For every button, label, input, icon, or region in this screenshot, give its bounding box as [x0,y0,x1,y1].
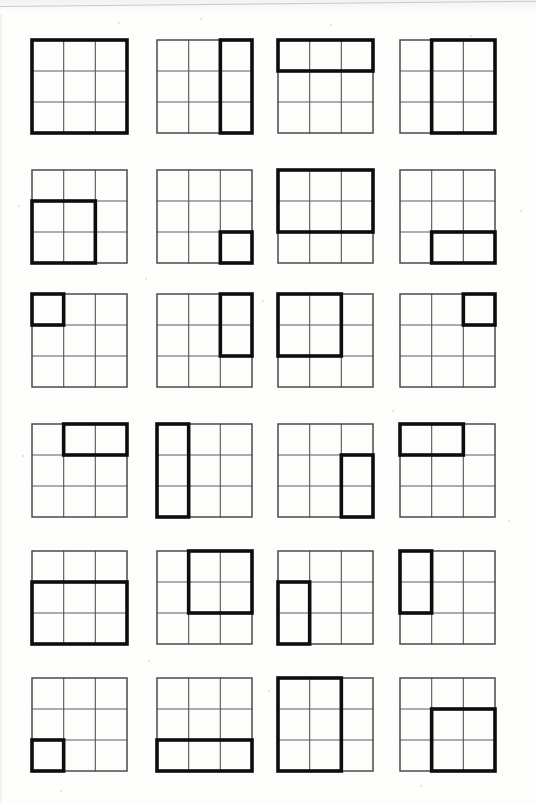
grid-figure-3[interactable] [274,36,377,137]
grid-lines-group [157,678,252,771]
grid-outer-border [157,170,252,263]
grid-figure-21[interactable] [28,674,131,775]
highlighted-region[interactable] [220,40,252,133]
highlighted-region[interactable] [32,740,64,771]
grid-figure-2[interactable] [153,36,256,137]
grid-canvas-8 [396,166,499,267]
grid-canvas-6 [153,166,256,267]
grid-figure-12[interactable] [396,290,499,391]
grid-lines-group [32,551,127,644]
grid-lines-group [400,424,495,517]
grid-canvas-21 [28,674,131,775]
grid-canvas-1 [28,36,131,137]
grid-lines-group [157,551,252,644]
grid-lines-group [278,424,373,517]
scan-speck-4 [470,35,472,37]
grid-canvas-7 [274,166,377,267]
grid-figure-5[interactable] [28,166,131,267]
grid-outer-border [400,678,495,771]
grid-figure-22[interactable] [153,674,256,775]
grid-lines-group [400,551,495,644]
grid-figure-1[interactable] [28,36,131,137]
highlighted-region[interactable] [278,40,373,71]
scan-speck-15 [420,785,422,787]
grid-figure-24[interactable] [396,674,499,775]
grid-canvas-2 [153,36,256,137]
grid-outer-border [157,40,252,133]
scan-speck-1 [118,22,120,24]
grid-canvas-12 [396,290,499,391]
grid-outer-border [400,551,495,644]
grid-outer-border [157,424,252,517]
grid-lines-group [157,170,252,263]
grid-lines-group [32,294,127,387]
grid-lines-group [32,170,127,263]
grid-outer-border [32,551,127,644]
grid-figure-23[interactable] [274,674,377,775]
grid-figure-14[interactable] [153,420,256,521]
grid-figure-20[interactable] [396,547,499,648]
grid-lines-group [157,40,252,133]
grid-canvas-10 [153,290,256,391]
grid-outer-border [157,294,252,387]
grid-canvas-13 [28,420,131,521]
grid-lines-group [278,294,373,387]
grid-figure-7[interactable] [274,166,377,267]
grid-canvas-9 [28,290,131,391]
scan-speck-11 [508,520,510,522]
grid-lines-group [278,551,373,644]
grid-canvas-15 [274,420,377,521]
scan-speck-9 [392,410,394,412]
grid-canvas-18 [153,547,256,648]
grid-figure-19[interactable] [274,547,377,648]
grid-figure-18[interactable] [153,547,256,648]
grid-outer-border [32,678,127,771]
grid-canvas-5 [28,166,131,267]
scan-speck-3 [330,24,332,26]
grid-figure-6[interactable] [153,166,256,267]
grid-outer-border [157,678,252,771]
scan-speck-10 [22,455,24,457]
scan-speck-13 [268,690,270,692]
grid-lines-group [400,170,495,263]
grid-lines-group [157,424,252,517]
grid-outer-border [278,294,373,387]
scan-speck-14 [60,790,62,792]
highlighted-region[interactable] [32,40,127,133]
grid-figure-10[interactable] [153,290,256,391]
grid-lines-group [32,678,127,771]
grid-outer-border [32,424,127,517]
highlighted-region[interactable] [157,740,252,771]
grid-figure-4[interactable] [396,36,499,137]
grid-outer-border [400,424,495,517]
scan-speck-7 [145,278,147,280]
grid-canvas-24 [396,674,499,775]
grid-canvas-22 [153,674,256,775]
grid-outer-border [32,40,127,133]
grid-figure-11[interactable] [274,290,377,391]
scan-speck-5 [18,205,20,207]
scan-speck-12 [148,660,150,662]
grid-outer-border [278,170,373,263]
scanned-paper-sheet [0,0,536,803]
grid-lines-group [157,294,252,387]
highlighted-region[interactable] [32,294,64,325]
scan-speck-8 [262,300,264,302]
grid-outer-border [278,40,373,133]
highlighted-region[interactable] [463,294,495,325]
grid-figure-15[interactable] [274,420,377,521]
grid-canvas-3 [274,36,377,137]
grid-lines-group [278,170,373,263]
grid-figure-17[interactable] [28,547,131,648]
grid-figure-8[interactable] [396,166,499,267]
grid-figure-9[interactable] [28,290,131,391]
grid-figure-16[interactable] [396,420,499,521]
grid-figure-13[interactable] [28,420,131,521]
grid-canvas-14 [153,420,256,521]
grid-lines-group [278,40,373,133]
grid-lines-group [400,294,495,387]
highlighted-region[interactable] [220,232,252,263]
grid-outer-border [278,678,373,771]
highlighted-region[interactable] [157,424,189,517]
grid-outer-border [278,424,373,517]
